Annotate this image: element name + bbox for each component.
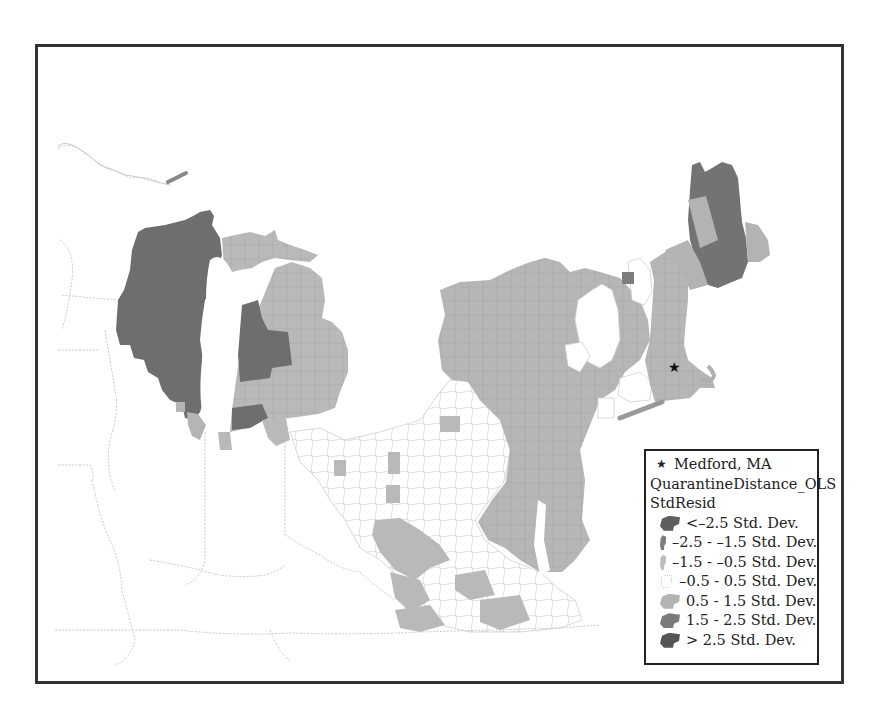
swatch-icon <box>660 516 680 531</box>
legend-class-label: –1.5 - –0.5 Std. Dev. <box>672 553 817 573</box>
legend-marker-row: ★ Medford, MA <box>650 455 817 475</box>
region-nh-dark-county <box>622 272 634 284</box>
legend-class-row: 0.5 - 1.5 Std. Dev. <box>650 592 817 612</box>
region-ne-indiana <box>262 418 290 446</box>
legend: ★ Medford, MA QuarantineDistance_OLS Std… <box>644 449 819 665</box>
lake-superior-shore <box>58 143 170 185</box>
region-michigan-sw-dark <box>232 404 268 430</box>
swatch-icon <box>660 594 680 609</box>
region-michigan-up-fill <box>222 230 318 272</box>
legend-class-row: <–2.5 Std. Dev. <box>650 514 817 534</box>
long-island <box>620 402 662 418</box>
swatch-icon <box>660 574 673 589</box>
legend-marker-label: Medford, MA <box>674 455 772 475</box>
legend-class-label: –0.5 - 0.5 Std. Dev. <box>679 572 817 592</box>
legend-field-name: StdResid <box>650 494 817 514</box>
legend-class-row: –1.5 - –0.5 Std. Dev. <box>650 553 817 573</box>
legend-layer-name: QuarantineDistance_OLS <box>650 475 817 495</box>
legend-class-label: > 2.5 Std. Dev. <box>686 631 796 651</box>
swatch-icon <box>660 555 666 570</box>
region-ct-white <box>618 372 652 402</box>
region-wisconsin-sw-light <box>176 402 185 412</box>
swatch-icon <box>660 535 666 550</box>
region-maine-east-light <box>745 222 770 262</box>
legend-class-label: 1.5 - 2.5 Std. Dev. <box>686 611 816 631</box>
legend-class-row: > 2.5 Std. Dev. <box>650 631 817 651</box>
region-ny-white-south <box>598 398 614 418</box>
isle-royale <box>168 173 186 182</box>
legend-class-label: –2.5 - –1.5 Std. Dev. <box>672 533 817 553</box>
legend-class-row: 1.5 - 2.5 Std. Dev. <box>650 611 817 631</box>
swatch-icon <box>660 613 680 628</box>
legend-class-label: <–2.5 Std. Dev. <box>686 514 799 534</box>
legend-class-row: –2.5 - –1.5 Std. Dev. <box>650 533 817 553</box>
swatch-icon <box>660 633 680 648</box>
region-nw-indiana <box>218 432 232 450</box>
medford-star-icon: ★ <box>668 360 681 374</box>
legend-class-row: –0.5 - 0.5 Std. Dev. <box>650 572 817 592</box>
legend-class-label: 0.5 - 1.5 Std. Dev. <box>686 592 816 612</box>
star-icon: ★ <box>652 455 670 475</box>
